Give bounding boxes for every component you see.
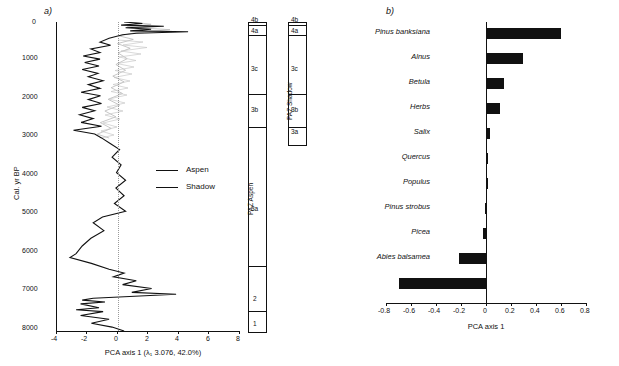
x-tickmark-4 [178,331,179,334]
bar-populus [486,178,488,189]
legend-label-aspen: Aspen [186,165,209,174]
b-x-label-0.2: 0.2 [505,307,515,314]
y-tick-0: 0 [32,18,36,25]
b-x-label-0.6: 0.6 [555,307,565,314]
bar-label-betula: Betula [340,77,430,86]
paz-aspen-header: PAZ Aspen [247,183,254,215]
x-tick-label-6: 6 [206,335,210,342]
paz-shadow-zone-4b: 4b [291,16,298,23]
paz-shadow-zone-3c: 3c [291,65,298,72]
legend-aspen: Aspen [186,165,209,174]
panel-b-pca-loadings: b) Pinus banksiana Alnus Betula Herbs Sa… [340,0,619,366]
paz-shadow-div-4a [289,35,306,36]
paz-shadow-header: PAZ Shadow [286,83,293,120]
panel-b-label: b) [386,6,394,16]
b-x-label--0.6: -0.6 [403,307,415,314]
y-tick-8000: 8000 [22,324,38,331]
legend-label-shadow: Shadow [186,182,215,191]
paz-aspen-zone-3b: 3b [251,106,258,113]
x-tick-label--2: -2 [81,335,87,342]
x-tickmark-2 [147,331,148,334]
bar-label-alnus: Alnus [340,52,430,61]
x-tickmark-0 [117,331,118,334]
panel-b-plot-area [386,22,586,304]
bar-label-picea: Picea [340,277,430,286]
bar-label-quercus: Quercus [340,152,430,161]
b-x-tickmark-0.4 [536,303,537,306]
x-tick-label-4: 4 [175,335,179,342]
paz-aspen-div-3a [249,266,266,267]
x-tickmark-6 [208,331,209,334]
b-x-tickmark--0.4 [436,303,437,306]
x-tick-label--4: -4 [51,335,57,342]
bar-betula [486,78,504,89]
bar-pinus-banksiana [486,28,561,39]
y-tick-3000: 3000 [22,131,38,138]
b-x-label--0.8: -0.8 [378,307,390,314]
paz-aspen-div-3c [249,94,266,95]
paz-aspen-div-4b [249,25,266,26]
b-x-tickmark--0.6 [411,303,412,306]
bar-alnus [486,53,523,64]
panel-a-pca-depth-profile: a) Cal. yr BP 0 1000 2000 3000 4000 5000… [0,0,340,366]
b-x-label-0.8: 0.8 [580,307,590,314]
b-x-tickmark-0 [486,303,487,306]
b-x-tickmark-0.8 [586,303,587,306]
y-tick-5000: 5000 [22,208,38,215]
paz-aspen-zone-1: 1 [253,320,257,327]
panel-a-plot-area [56,22,240,332]
x-tick-label-2: 2 [145,335,149,342]
paz-aspen-zone-2: 2 [253,295,257,302]
bar-picea-upper [483,228,486,239]
y-tick-1000: 1000 [22,54,38,61]
bar-label-populus: Populus [340,177,430,186]
b-x-label--0.4: -0.4 [428,307,440,314]
b-x-label-0.4: 0.4 [530,307,540,314]
bar-label-salix: Salix [340,127,430,136]
paz-aspen-zone-4b: 4b [251,16,258,23]
legend-swatch-shadow [156,187,178,188]
paz-aspen-div-2 [249,311,266,312]
bar-herbs [486,103,500,114]
x-tickmark--4 [56,331,57,334]
b-x-label-0: 0 [483,307,487,314]
bar-pinus-strobus [485,203,486,214]
bar-abies-balsamea [459,253,486,264]
panel-a-series-svg [57,22,240,331]
series-aspen-line [70,22,188,331]
series-shadow-detail [101,40,147,138]
b-x-tickmark--0.8 [386,303,387,306]
legend-swatch-aspen [156,170,178,171]
y-tick-7000: 7000 [22,285,38,292]
panel-a-x-axis-title: PCA axis 1 (λ₁ 3.076, 42.0%) [88,348,218,357]
y-tick-6000: 6000 [22,247,38,254]
b-x-tickmark-0.6 [561,303,562,306]
bar-label-pinus-banksiana: Pinus banksiana [340,27,430,36]
x-tickmark--2 [86,331,87,334]
bar-label-herbs: Herbs [340,102,430,111]
bar-salix [486,128,490,139]
bar-label-pinus-strobus: Pinus strobus [340,202,430,211]
y-tick-2000: 2000 [22,93,38,100]
b-x-tickmark--0.2 [461,303,462,306]
paz-aspen-zone-4a: 4a [251,27,258,34]
b-x-tickmark-0.2 [511,303,512,306]
legend-shadow: Shadow [186,182,215,191]
x-tickmark-8 [239,331,240,334]
x-tick-label-8: 8 [236,335,240,342]
bar-label-abies-balsamea: Abies balsamea [340,252,430,261]
panel-a-label: a) [44,6,52,16]
paz-shadow-zone-3a: 3a [291,128,298,135]
series-shadow-line [97,22,170,138]
paz-shadow-zone-4a: 4a [291,27,298,34]
panel-a-y-axis-title: Cal. yr BP [12,166,21,200]
paz-aspen-zone-3c: 3c [251,65,258,72]
panel-b-x-axis-title: PCA axis 1 [446,322,526,331]
bar-label-picea-upper: Picea [340,227,430,236]
paz-shadow-div-4b [289,25,306,26]
b-x-label--0.2: -0.2 [453,307,465,314]
paz-aspen-div-3b [249,127,266,128]
bar-quercus [486,153,488,164]
paz-aspen-div-4a [249,35,266,36]
x-tick-label-0: 0 [114,335,118,342]
